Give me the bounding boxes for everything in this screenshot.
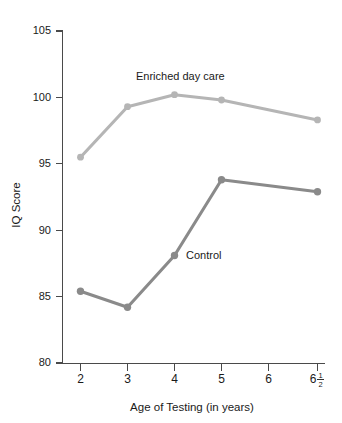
control-point-age-5 <box>218 176 225 183</box>
control-point-age-2 <box>77 288 84 295</box>
series-label-enriched-day-care: Enriched day care <box>136 70 225 82</box>
series-label-control: Control <box>186 249 221 261</box>
y-axis-tick-labels: 105 100 95 90 85 80 <box>33 24 51 368</box>
y-tick-label-105: 105 <box>33 24 51 36</box>
enriched-markers <box>77 91 321 160</box>
y-tick-label-100: 100 <box>33 91 51 103</box>
control-markers <box>77 176 321 311</box>
series-control: Control <box>77 176 321 311</box>
iq-score-line-chart: 105 100 95 90 85 80 IQ Score 2 <box>0 0 342 423</box>
x-tick-label-2: 2 <box>77 372 84 386</box>
chart-canvas: 105 100 95 90 85 80 IQ Score 2 <box>0 0 342 423</box>
enriched-line <box>81 95 318 158</box>
control-line <box>81 180 318 307</box>
x-tick-label-6-half-numerator: 1 <box>318 371 322 380</box>
y-axis: 105 100 95 90 85 80 IQ Score <box>10 24 63 368</box>
y-tick-label-85: 85 <box>39 290 51 302</box>
control-point-age-4 <box>171 252 178 259</box>
control-point-age-6-5 <box>314 188 321 195</box>
y-tick-label-95: 95 <box>39 157 51 169</box>
enriched-point-age-3 <box>124 103 131 110</box>
x-tick-label-6-half-denominator: 2 <box>318 380 322 389</box>
x-tick-label-4: 4 <box>171 372 178 386</box>
enriched-point-age-5 <box>218 97 225 104</box>
enriched-point-age-2 <box>77 154 84 161</box>
y-axis-title: IQ Score <box>10 182 22 227</box>
y-tick-label-80: 80 <box>39 356 51 368</box>
x-axis-title: Age of Testing (in years) <box>130 401 254 413</box>
enriched-point-age-4 <box>171 91 178 98</box>
enriched-point-age-6-5 <box>314 117 321 124</box>
y-tick-label-90: 90 <box>39 224 51 236</box>
x-tick-label-6-and-half: 6 1 2 <box>310 371 324 389</box>
series-enriched-day-care: Enriched day care <box>77 70 321 161</box>
x-tick-label-6: 6 <box>265 372 272 386</box>
x-tick-label-6-half-whole: 6 <box>310 372 317 386</box>
x-axis: 2 3 4 5 6 6 1 2 Age of Testing (in years… <box>63 364 326 414</box>
x-axis-ticks <box>81 364 318 372</box>
control-point-age-3 <box>124 304 131 311</box>
x-tick-label-5: 5 <box>218 372 225 386</box>
y-axis-ticks <box>56 31 63 363</box>
x-tick-label-3: 3 <box>124 372 131 386</box>
x-axis-tick-labels: 2 3 4 5 6 6 1 2 <box>77 371 324 389</box>
